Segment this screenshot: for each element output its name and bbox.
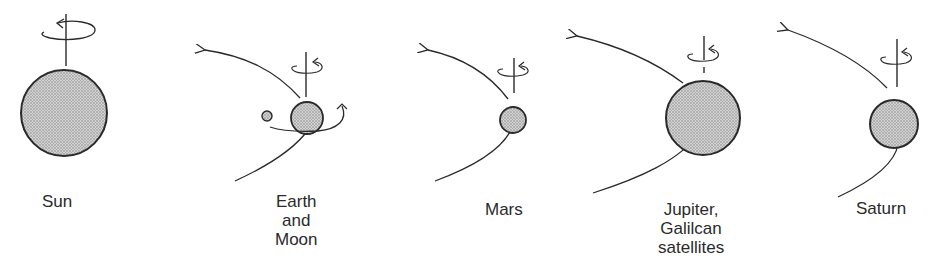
jupiter-label-line-3: satellites: [658, 238, 724, 257]
jupiter-spin-arrow-icon: [688, 49, 719, 61]
jupiter-label-line-1: Jupiter,: [658, 200, 724, 219]
sun-label: Sun: [42, 192, 72, 211]
jupiter-label: Jupiter, Galilcan satellites: [658, 200, 724, 257]
mars-spin-arrow-icon: [498, 66, 528, 76]
earth-incoming-path: [235, 130, 308, 181]
earth-body: [291, 102, 323, 134]
earth-moon-group: [205, 50, 347, 181]
jupiter-label-line-2: Galilcan: [658, 219, 724, 238]
mars-group: [428, 50, 528, 181]
jupiter-body: [666, 81, 740, 155]
mars-label: Mars: [485, 200, 523, 219]
earth-label-line-1: Earth: [275, 192, 318, 211]
moon-body: [262, 111, 272, 121]
sun-body: [21, 70, 107, 156]
earth-label-line-3: Moon: [275, 230, 318, 249]
sun-group: [21, 14, 107, 156]
saturn-incoming-path: [838, 144, 898, 197]
earth-label-line-2: and: [275, 211, 318, 230]
saturn-label: Saturn: [856, 199, 906, 218]
earth-orbit-path: [205, 50, 300, 98]
solar-system-diagram: [0, 0, 942, 274]
earth-spin-arrow-icon: [292, 62, 322, 73]
saturn-orbit-path: [788, 30, 887, 88]
jupiter-group: [577, 36, 740, 193]
saturn-spin-arrow-icon: [881, 52, 912, 64]
earth-moon-label: Earth and Moon: [275, 192, 318, 249]
mars-incoming-path: [435, 130, 511, 181]
sun-spin-arrow-icon: [42, 21, 95, 39]
mars-body: [500, 107, 526, 133]
jupiter-orbit-path: [577, 36, 683, 83]
saturn-group: [788, 30, 918, 197]
saturn-body: [870, 100, 918, 148]
mars-orbit-path: [428, 50, 508, 99]
